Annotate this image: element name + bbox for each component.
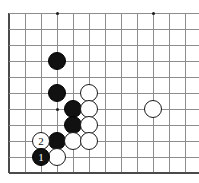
- go-board[interactable]: 21: [0, 0, 199, 183]
- go-diagram-figure: 21: [0, 0, 199, 183]
- white-stone[interactable]: [144, 100, 162, 118]
- grid-line-horizontal: [9, 125, 199, 126]
- star-point-left: [56, 12, 59, 15]
- grid-line-horizontal: [9, 45, 199, 46]
- grid-line-horizontal: [9, 13, 199, 14]
- black-stone[interactable]: [48, 84, 66, 102]
- stone-move-number: 1: [33, 149, 49, 165]
- stone-move-number: 2: [33, 133, 49, 149]
- grid-line-horizontal: [9, 172, 199, 174]
- grid-line-horizontal: [9, 77, 199, 78]
- star-point-right: [152, 12, 155, 15]
- grid-line-horizontal: [9, 61, 199, 62]
- inner-dot-mark: [56, 108, 59, 111]
- grid-line-horizontal: [9, 109, 199, 110]
- grid-line-horizontal: [9, 29, 199, 30]
- black-stone-move-1[interactable]: 1: [32, 148, 50, 166]
- grid-line-horizontal: [9, 93, 199, 94]
- white-stone[interactable]: [80, 132, 98, 150]
- white-stone[interactable]: [48, 148, 66, 166]
- black-stone[interactable]: [48, 52, 66, 70]
